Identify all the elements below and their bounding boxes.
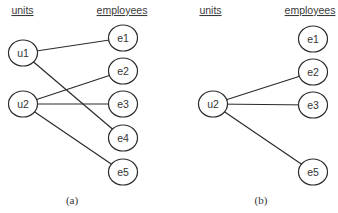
node-label: e4 bbox=[117, 132, 129, 144]
node-e3: e3 bbox=[299, 92, 328, 118]
node-label: e3 bbox=[307, 99, 319, 111]
nodes-a: u1u2e1e2e3e4e5 bbox=[9, 25, 138, 185]
panel-a: units employees u1u2e1e2e3e4e5 (a) bbox=[9, 4, 148, 207]
node-label: e5 bbox=[117, 166, 129, 178]
node-label: e1 bbox=[307, 33, 319, 45]
node-e3: e3 bbox=[109, 91, 138, 117]
edges-b bbox=[213, 72, 313, 172]
edge-u2-e2 bbox=[213, 72, 313, 104]
node-label: u1 bbox=[17, 47, 29, 59]
node-u1: u1 bbox=[9, 40, 38, 66]
node-e2: e2 bbox=[109, 58, 138, 84]
edge-u2-e2 bbox=[23, 71, 123, 104]
node-e1: e1 bbox=[109, 25, 138, 51]
node-e2: e2 bbox=[299, 59, 328, 85]
node-e1: e1 bbox=[299, 26, 328, 52]
edge-u1-e1 bbox=[23, 38, 123, 53]
node-label: e2 bbox=[307, 66, 319, 78]
employees-header-b: employees bbox=[285, 4, 336, 16]
units-header-a: units bbox=[11, 4, 33, 16]
units-header-b: units bbox=[199, 4, 221, 16]
caption-a: (a) bbox=[66, 194, 79, 207]
bipartite-diagram: units employees u1u2e1e2e3e4e5 (a) units… bbox=[0, 0, 338, 213]
panel-b: units employees u2e1e2e3e5 (b) bbox=[199, 4, 336, 207]
edge-u2-e5 bbox=[213, 104, 313, 172]
employees-header-a: employees bbox=[97, 4, 148, 16]
node-u2: u2 bbox=[9, 91, 38, 117]
nodes-b: u2e1e2e3e5 bbox=[199, 26, 328, 185]
node-label: e2 bbox=[117, 65, 129, 77]
node-label: u2 bbox=[207, 98, 219, 110]
node-e5: e5 bbox=[299, 159, 328, 185]
caption-b: (b) bbox=[255, 194, 268, 207]
edge-u1-e4 bbox=[23, 53, 123, 138]
node-label: e5 bbox=[307, 166, 319, 178]
node-label: e3 bbox=[117, 98, 129, 110]
node-e4: e4 bbox=[109, 125, 138, 151]
node-u2: u2 bbox=[199, 91, 228, 117]
node-e5: e5 bbox=[109, 159, 138, 185]
node-label: u2 bbox=[17, 98, 29, 110]
node-label: e1 bbox=[117, 32, 129, 44]
